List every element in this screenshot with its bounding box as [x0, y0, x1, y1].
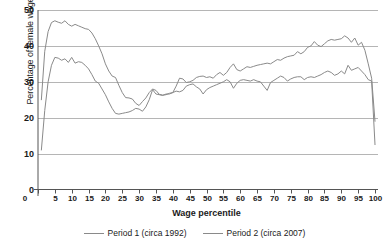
x-tick-40: 40	[169, 195, 178, 203]
gridlines	[38, 11, 378, 155]
x-tick-65: 65	[253, 195, 262, 203]
legend-line-icon	[84, 233, 104, 234]
x-tick-75: 75	[287, 195, 296, 203]
x-tick-85: 85	[320, 195, 329, 203]
data-series	[41, 21, 375, 150]
x-tick-5: 5	[53, 195, 57, 203]
chart-legend: Period 1 (circa 1992) Period 2 (circa 20…	[0, 228, 389, 238]
x-tick-50: 50	[203, 195, 212, 203]
x-tick-marks	[39, 190, 376, 194]
x-tick-35: 35	[152, 195, 161, 203]
x-tick-45: 45	[186, 195, 195, 203]
legend-item-period-2: Period 2 (circa 2007)	[203, 228, 306, 238]
x-tick-30: 30	[135, 195, 144, 203]
legend-label-period-2: Period 2 (circa 2007)	[227, 228, 306, 238]
axis-lines	[34, 10, 378, 196]
x-tick-60: 60	[236, 195, 245, 203]
x-tick-20: 20	[101, 195, 110, 203]
x-tick-0: 0	[23, 195, 27, 203]
x-tick-70: 70	[270, 195, 279, 203]
x-tick-100: 100	[369, 195, 382, 203]
chart-figure: Percentage of female wage 50 40 30 20 10…	[0, 0, 389, 250]
legend-label-period-1: Period 1 (circa 1992)	[108, 228, 187, 238]
x-tick-90: 90	[337, 195, 346, 203]
x-tick-25: 25	[118, 195, 127, 203]
x-axis-label: Wage percentile	[38, 208, 375, 218]
legend-item-period-1: Period 1 (circa 1992)	[84, 228, 187, 238]
x-tick-95: 95	[354, 195, 363, 203]
series-line-2	[41, 57, 375, 150]
x-tick-55: 55	[219, 195, 228, 203]
x-tick-15: 15	[85, 195, 94, 203]
x-tick-10: 10	[68, 195, 77, 203]
legend-line-icon	[203, 233, 223, 234]
x-tick-80: 80	[304, 195, 313, 203]
series-line-1	[41, 21, 375, 122]
